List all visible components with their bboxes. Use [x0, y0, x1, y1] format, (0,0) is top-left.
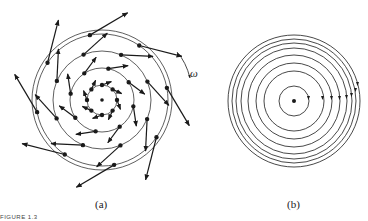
center-dot-a	[100, 98, 104, 102]
omega-label: ω	[190, 67, 198, 79]
panel-a-label: (a)	[95, 198, 107, 210]
figure-canvas	[0, 0, 368, 221]
center-dot-b	[292, 99, 296, 103]
panel-b-label: (b)	[287, 198, 300, 210]
figure-caption: FIGURE 1.3	[0, 214, 38, 220]
